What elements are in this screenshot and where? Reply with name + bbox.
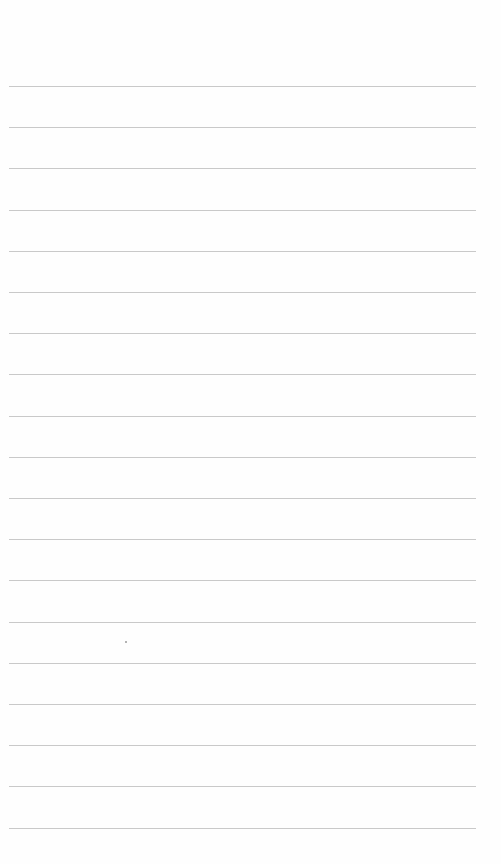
- ruled-line: [9, 86, 476, 87]
- ruled-line: [9, 333, 476, 334]
- ruled-line: [9, 498, 476, 499]
- paper-speck: [125, 641, 127, 643]
- ruled-line: [9, 745, 476, 746]
- ruled-line: [9, 663, 476, 664]
- ruled-line: [9, 374, 476, 375]
- ruled-line: [9, 786, 476, 787]
- ruled-line: [9, 292, 476, 293]
- ruled-line: [9, 416, 476, 417]
- ruled-line: [9, 828, 476, 829]
- ruled-line: [9, 539, 476, 540]
- ruled-line: [9, 210, 476, 211]
- ruled-line: [9, 704, 476, 705]
- ruled-line: [9, 251, 476, 252]
- ruled-line: [9, 457, 476, 458]
- ruled-line: [9, 622, 476, 623]
- ruled-line: [9, 580, 476, 581]
- lined-paper-page: [0, 0, 501, 864]
- ruled-line: [9, 168, 476, 169]
- ruled-line: [9, 127, 476, 128]
